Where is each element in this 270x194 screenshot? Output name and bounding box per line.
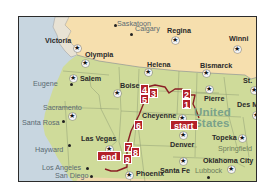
city-label-calgary: Calgary (135, 25, 160, 33)
city-label-victoria: Victoria (45, 37, 71, 45)
city-label-santa-rosa: Santa Rosa (22, 119, 60, 127)
country-label-line-2: States (194, 118, 231, 129)
city-label-pierre: Pierre (204, 95, 224, 103)
city-label-topeka: Topeka (212, 134, 237, 142)
route-marker-start[interactable]: start (170, 120, 198, 130)
route-marker-4[interactable]: 4 (140, 84, 149, 94)
route-map[interactable]: Saskatoon Calgary Regina Winni Victoria … (18, 16, 257, 182)
eugene-dot (70, 83, 73, 86)
regina-capital-icon (172, 37, 179, 44)
route-marker-9[interactable]: 9 (123, 154, 132, 164)
calgary-dot (130, 33, 133, 36)
los-angeles-dot (86, 167, 89, 170)
lubbock-dot (207, 176, 210, 179)
city-label-denver: Denver (170, 141, 194, 149)
city-label-eugene: Eugene (33, 80, 58, 88)
victoria-capital-icon (74, 45, 81, 52)
city-label-helena: Helena (147, 61, 171, 69)
phoenix-capital-icon (126, 172, 133, 179)
city-label-regina: Regina (167, 27, 191, 35)
city-label-san-diego: San Diego (55, 172, 89, 180)
city-label-las-vegas: Las Vegas (81, 135, 116, 143)
country-label-united-states: United States (194, 107, 231, 129)
city-label-boise: Boise (120, 82, 140, 90)
route-marker-6[interactable]: 6 (134, 120, 143, 130)
helena-capital-icon (145, 69, 152, 76)
san-diego-dot (90, 175, 93, 178)
topeka-capital-icon (239, 135, 246, 142)
santa-fe-capital-icon (180, 158, 187, 165)
boise-capital-icon (114, 90, 121, 97)
city-label-olympia: Olympia (85, 51, 113, 59)
salem-capital-icon (70, 75, 77, 82)
city-label-santa-fe: Santa Fe (160, 167, 190, 175)
route-marker-8[interactable]: 8 (131, 147, 140, 157)
city-label-springfield: Springfield (218, 145, 252, 153)
st-paul-capital-icon (251, 87, 257, 94)
route-marker-2[interactable]: 2 (182, 89, 191, 99)
city-label-phoenix: Phoenix (136, 170, 164, 178)
city-label-des-moines: Des M (237, 101, 257, 109)
city-label-hayward: Hayward (35, 146, 63, 154)
bismarck-capital-icon (203, 70, 210, 77)
route-marker-3[interactable]: 3 (149, 88, 158, 98)
santa-rosa-dot (62, 120, 65, 123)
winnipeg-capital-icon (234, 46, 241, 53)
city-label-sacramento: Sacramento (43, 104, 82, 112)
route-marker-1[interactable]: 1 (182, 99, 191, 109)
des-moines-capital-icon (253, 112, 257, 119)
city-label-winni: Winni (229, 35, 249, 43)
city-label-bismarck: Bismarck (200, 62, 232, 70)
city-label-cheyenne: Cheyenne (142, 112, 176, 120)
route-marker-5[interactable]: 5 (140, 94, 149, 104)
city-label-st: St. (243, 77, 252, 85)
city-label-salem: Salem (80, 75, 101, 83)
denver-capital-icon (180, 132, 187, 139)
hayward-dot (68, 144, 71, 147)
pierre-capital-icon (206, 86, 213, 93)
city-label-lubbock: Lubbock (195, 167, 222, 175)
olympia-capital-icon (82, 60, 89, 67)
oklahoma-city-capital-icon (228, 166, 235, 173)
sacramento-capital-icon (69, 113, 76, 120)
city-label-oklahoma-city: Oklahoma City (203, 157, 253, 165)
route-marker-end[interactable]: end (97, 151, 121, 161)
